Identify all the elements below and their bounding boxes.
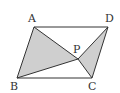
label-b: B — [10, 80, 18, 93]
shaded-triangle-pcd — [78, 27, 108, 78]
label-p: P — [73, 43, 81, 56]
parallelogram-diagram: A D B C P — [0, 0, 120, 93]
label-d: D — [105, 12, 114, 25]
label-c: C — [88, 80, 96, 93]
label-a: A — [27, 12, 37, 25]
